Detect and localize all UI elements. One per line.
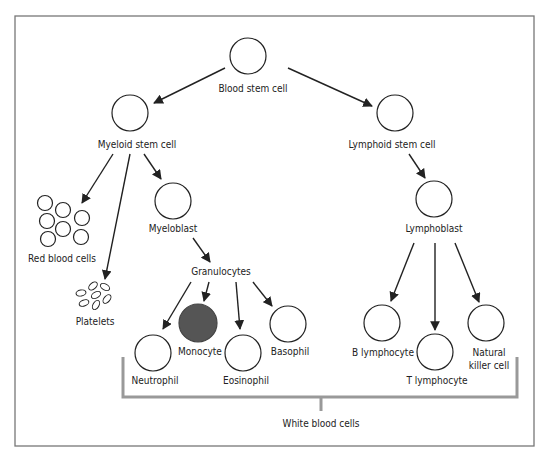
label-myeloblast: Myeloblast bbox=[149, 223, 198, 234]
natural-killer-cell-icon bbox=[468, 305, 504, 341]
arrow-to-platelets bbox=[105, 154, 130, 279]
node-blood-stem-cell: Blood stem cell bbox=[218, 38, 287, 94]
label-red-blood-cells: Red blood cells bbox=[28, 253, 96, 264]
basophil-icon bbox=[270, 306, 306, 342]
arrow-to-basophil bbox=[253, 282, 272, 306]
label-blood-stem-cell: Blood stem cell bbox=[218, 83, 287, 94]
label-b-lymphocyte: B lymphocyte bbox=[352, 347, 414, 358]
blood-cell-lineage-diagram: Blood stem cell Myeloid stem cell Lympho… bbox=[0, 0, 551, 463]
node-t-lymphocyte: T lymphocyte bbox=[405, 334, 468, 386]
arrow-to-b-lymphocyte bbox=[391, 243, 414, 301]
node-red-blood-cells: Red blood cells bbox=[28, 196, 96, 265]
label-lymphoblast: Lymphoblast bbox=[405, 223, 463, 234]
label-basophil: Basophil bbox=[271, 346, 309, 357]
node-neutrophil: Neutrophil bbox=[132, 335, 179, 386]
myeloblast-icon bbox=[155, 183, 191, 219]
label-granulocytes: Granulocytes bbox=[191, 266, 251, 277]
arrow-to-red-blood-cells bbox=[82, 154, 113, 203]
label-myeloid-stem-cell: Myeloid stem cell bbox=[98, 139, 177, 150]
label-natural-killer-cell-line1: Natural bbox=[472, 347, 505, 358]
node-myeloid-stem-cell: Myeloid stem cell bbox=[98, 95, 177, 150]
node-lymphoid-stem-cell: Lymphoid stem cell bbox=[348, 95, 435, 150]
arrow-to-natural-killer-cell bbox=[455, 243, 479, 302]
label-neutrophil: Neutrophil bbox=[132, 375, 179, 386]
b-lymphocyte-icon bbox=[364, 305, 400, 341]
arrow-to-granulocytes bbox=[193, 238, 210, 262]
blood-stem-cell-icon bbox=[230, 38, 266, 74]
arrow-to-eosinophil bbox=[236, 282, 240, 329]
node-platelets: Platelets bbox=[76, 280, 115, 327]
eosinophil-icon bbox=[225, 335, 261, 371]
node-natural-killer-cell: Natural killer cell bbox=[468, 305, 509, 371]
label-natural-killer-cell-line2: killer cell bbox=[469, 360, 509, 371]
label-lymphoid-stem-cell: Lymphoid stem cell bbox=[348, 139, 435, 150]
platelets-icon bbox=[76, 280, 113, 310]
lymphoid-stem-cell-icon bbox=[377, 95, 413, 131]
neutrophil-icon bbox=[135, 335, 171, 371]
node-lymphoblast: Lymphoblast bbox=[405, 181, 463, 234]
red-blood-cells-icon bbox=[38, 196, 90, 247]
monocyte-icon bbox=[179, 304, 217, 342]
arrow-to-lymphoid bbox=[288, 68, 372, 106]
label-monocyte: Monocyte bbox=[178, 346, 222, 357]
myeloid-stem-cell-icon bbox=[112, 95, 148, 131]
label-t-lymphocyte: T lymphocyte bbox=[405, 375, 468, 386]
arrow-to-monocyte bbox=[204, 282, 209, 301]
t-lymphocyte-icon bbox=[417, 334, 453, 370]
node-eosinophil: Eosinophil bbox=[223, 335, 269, 386]
lymphoblast-icon bbox=[416, 181, 452, 217]
label-platelets: Platelets bbox=[76, 316, 115, 327]
arrow-to-lymphoblast bbox=[409, 154, 425, 178]
node-basophil: Basophil bbox=[270, 306, 309, 357]
label-eosinophil: Eosinophil bbox=[223, 375, 269, 386]
node-myeloblast: Myeloblast bbox=[149, 183, 198, 234]
label-white-blood-cells: White blood cells bbox=[283, 418, 360, 429]
arrow-to-myeloblast bbox=[144, 154, 161, 179]
node-monocyte: Monocyte bbox=[178, 304, 222, 357]
node-b-lymphocyte: B lymphocyte bbox=[352, 305, 414, 358]
arrow-to-myeloid bbox=[154, 68, 225, 103]
